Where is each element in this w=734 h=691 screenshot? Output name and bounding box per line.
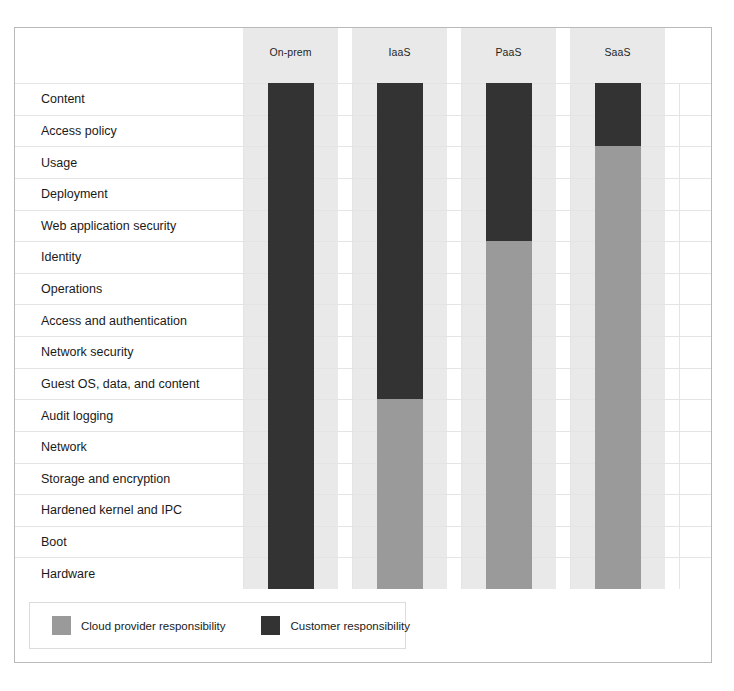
grid-rule — [352, 83, 353, 589]
row-label: Deployment — [41, 187, 108, 201]
grid-rule — [679, 83, 680, 589]
legend-swatch-provider-icon — [52, 616, 71, 635]
row-label: Storage and encryption — [41, 472, 170, 486]
row-label: Identity — [41, 250, 81, 264]
bar-segment-customer — [486, 83, 532, 241]
legend-label-provider: Cloud provider responsibility — [81, 620, 225, 632]
legend-swatch-customer-icon — [261, 616, 280, 635]
row-label: Hardened kernel and IPC — [41, 503, 182, 517]
bar-saas — [595, 83, 641, 589]
grid-rule — [570, 83, 571, 589]
grid-rule — [243, 83, 244, 589]
legend-label-customer: Customer responsibility — [290, 620, 410, 632]
legend: Cloud provider responsibility Customer r… — [29, 602, 406, 649]
row-label: Content — [41, 92, 85, 106]
row-label: Web application security — [41, 219, 176, 233]
column-header-saas: SaaS — [570, 46, 665, 58]
bar-on-prem — [268, 83, 314, 589]
row-label: Hardware — [41, 567, 95, 581]
bar-segment-customer — [595, 83, 641, 146]
shared-responsibility-chart: On-prem IaaS PaaS SaaS Content Access po… — [14, 27, 712, 663]
legend-item-provider: Cloud provider responsibility — [52, 616, 225, 635]
row-label: Guest OS, data, and content — [41, 377, 199, 391]
row-label: Access and authentication — [41, 314, 187, 328]
row-label: Audit logging — [41, 409, 113, 423]
row-label: Usage — [41, 156, 77, 170]
bar-paas — [486, 83, 532, 589]
row-label: Network — [41, 440, 87, 454]
legend-item-customer: Customer responsibility — [261, 616, 410, 635]
row-label: Operations — [41, 282, 102, 296]
column-header-on-prem: On-prem — [243, 46, 338, 58]
grid-rule — [461, 83, 462, 589]
row-label: Boot — [41, 535, 67, 549]
bar-segment-provider — [377, 399, 423, 589]
column-header-paas: PaaS — [461, 46, 556, 58]
row-label: Access policy — [41, 124, 117, 138]
row-label: Network security — [41, 345, 133, 359]
column-header-iaas: IaaS — [352, 46, 447, 58]
bar-segment-provider — [595, 146, 641, 589]
bar-segment-customer — [268, 83, 314, 589]
bar-iaas — [377, 83, 423, 589]
bar-segment-customer — [377, 83, 423, 399]
bar-segment-provider — [486, 241, 532, 589]
